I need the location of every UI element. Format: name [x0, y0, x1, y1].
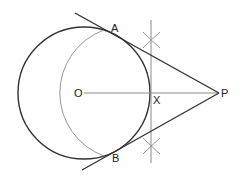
- label-o: O: [74, 87, 83, 99]
- label-a: A: [111, 22, 119, 34]
- diagram-canvas: A B O X P: [0, 0, 248, 183]
- label-b: B: [112, 152, 119, 164]
- label-x: X: [153, 94, 161, 106]
- tangent-pa: [75, 13, 219, 93]
- tangent-construction-diagram: A B O X P: [0, 0, 248, 183]
- label-p: P: [221, 87, 228, 99]
